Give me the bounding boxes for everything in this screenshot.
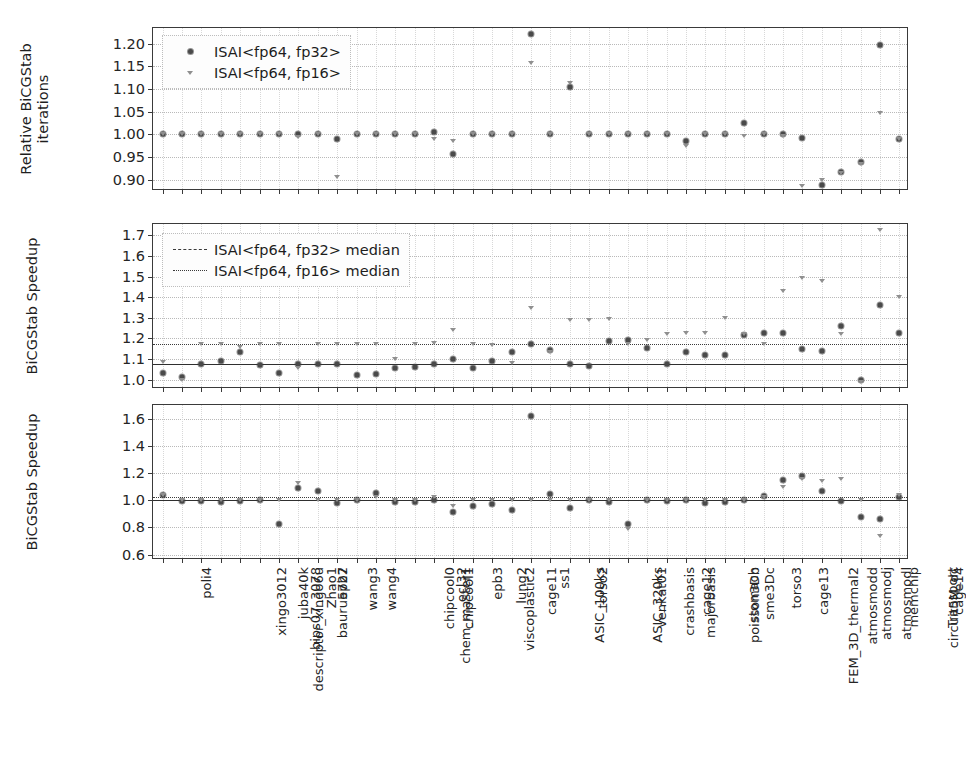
data-point-fp16 bbox=[586, 498, 592, 502]
data-point-fp16 bbox=[858, 498, 864, 502]
x-axis-tick bbox=[783, 387, 784, 392]
y-axis-tick-label: 1.0 bbox=[122, 372, 145, 388]
x-axis-tick bbox=[570, 558, 571, 563]
x-axis-tick bbox=[279, 189, 280, 194]
gridline-vertical bbox=[725, 405, 726, 558]
x-axis-tick bbox=[163, 387, 164, 392]
x-axis-tick-label: xingo3012 bbox=[274, 567, 289, 636]
gridline-vertical bbox=[453, 28, 454, 189]
gridline-vertical bbox=[415, 224, 416, 387]
x-axis-tick bbox=[337, 387, 338, 392]
x-axis-tick bbox=[667, 189, 668, 194]
gridline-horizontal bbox=[153, 338, 907, 339]
data-point-fp32 bbox=[703, 352, 708, 357]
data-point-fp16 bbox=[450, 504, 456, 508]
gridline-vertical bbox=[453, 224, 454, 387]
data-point-fp16 bbox=[780, 134, 786, 138]
gridline-vertical bbox=[744, 405, 745, 558]
x-axis-tick bbox=[492, 189, 493, 194]
gridline-vertical bbox=[686, 224, 687, 387]
x-axis-tick bbox=[453, 189, 454, 194]
x-axis-tick bbox=[492, 387, 493, 392]
x-axis-tick bbox=[783, 189, 784, 194]
gridline-vertical bbox=[453, 405, 454, 558]
data-point-fp32 bbox=[470, 503, 475, 508]
x-axis-tick bbox=[899, 558, 900, 563]
gridline-vertical bbox=[570, 405, 571, 558]
x-axis-tick bbox=[705, 189, 706, 194]
data-point-fp16 bbox=[644, 338, 650, 342]
gridline-horizontal bbox=[153, 446, 907, 447]
legend-entry: ISAI<fp64, fp32> bbox=[170, 41, 341, 62]
x-axis-tick-label: sme3Dc bbox=[762, 567, 777, 620]
x-axis-tick bbox=[589, 387, 590, 392]
data-point-fp32 bbox=[606, 338, 611, 343]
y-axis-tick-label: 1.10 bbox=[113, 81, 145, 97]
data-point-fp16 bbox=[567, 81, 573, 85]
x-axis-tick bbox=[357, 189, 358, 194]
data-point-fp16 bbox=[218, 132, 224, 136]
data-point-fp16 bbox=[295, 135, 301, 139]
x-axis-tick bbox=[899, 387, 900, 392]
x-axis-tick-label: ecl32 bbox=[454, 567, 469, 602]
y-axis-tick bbox=[148, 555, 153, 556]
gridline-vertical bbox=[492, 405, 493, 558]
x-axis-tick bbox=[473, 189, 474, 194]
y-axis-tick-label: 1.6 bbox=[122, 248, 145, 264]
data-point-fp16 bbox=[470, 498, 476, 502]
data-point-fp32 bbox=[625, 521, 630, 526]
gridline-vertical bbox=[512, 28, 513, 189]
data-point-fp16 bbox=[373, 495, 379, 499]
gridline-vertical bbox=[764, 224, 765, 387]
data-point-fp16 bbox=[702, 132, 708, 136]
gridline-vertical bbox=[783, 28, 784, 189]
data-point-fp32 bbox=[858, 515, 863, 520]
gridline-vertical bbox=[240, 405, 241, 558]
x-axis-tick-label: torso2 bbox=[596, 567, 611, 608]
gridline-vertical bbox=[764, 28, 765, 189]
x-axis-tick-label: FEM_3D_thermal2 bbox=[846, 567, 861, 684]
data-point-fp16 bbox=[664, 132, 670, 136]
gridline-vertical bbox=[667, 28, 668, 189]
data-point-fp16 bbox=[664, 498, 670, 502]
panel1-y-axis-title: Relative BiCGStab iterations bbox=[14, 27, 54, 190]
x-axis-tick bbox=[512, 558, 513, 563]
data-point-fp16 bbox=[276, 342, 282, 346]
x-axis-tick bbox=[512, 189, 513, 194]
x-axis-tick bbox=[318, 387, 319, 392]
data-point-fp32 bbox=[335, 362, 340, 367]
gridline-vertical bbox=[725, 28, 726, 189]
gridline-vertical bbox=[802, 28, 803, 189]
x-axis-tick bbox=[764, 558, 765, 563]
gridline-horizontal bbox=[153, 555, 907, 556]
x-axis-tick bbox=[667, 387, 668, 392]
y-axis-tick bbox=[148, 338, 153, 339]
x-axis-tick bbox=[725, 387, 726, 392]
data-point-fp16 bbox=[528, 61, 534, 65]
data-point-fp16 bbox=[179, 378, 185, 382]
panel1-legend: ISAI<fp64, fp32> ISAI<fp64, fp16> bbox=[162, 35, 351, 89]
x-axis-tick bbox=[822, 558, 823, 563]
x-axis-tick-label: wang4 bbox=[385, 567, 400, 610]
x-axis-tick bbox=[395, 189, 396, 194]
data-point-fp16 bbox=[567, 318, 573, 322]
data-point-fp32 bbox=[684, 349, 689, 354]
data-point-fp32 bbox=[664, 362, 669, 367]
data-point-fp16 bbox=[315, 498, 321, 502]
x-axis-tick bbox=[376, 558, 377, 563]
data-point-fp16 bbox=[799, 477, 805, 481]
gridline-vertical bbox=[802, 224, 803, 387]
data-point-fp32 bbox=[296, 485, 301, 490]
x-axis-tick bbox=[744, 387, 745, 392]
panel-speedup-lower: 0.60.81.01.21.41.6 bbox=[152, 404, 908, 559]
x-axis-tick bbox=[337, 189, 338, 194]
data-point-fp16 bbox=[198, 342, 204, 346]
data-point-fp16 bbox=[412, 498, 418, 502]
gridline-vertical bbox=[705, 405, 706, 558]
x-axis-tick bbox=[473, 387, 474, 392]
gridline-vertical bbox=[899, 28, 900, 189]
data-point-fp32 bbox=[529, 341, 534, 346]
data-point-fp16 bbox=[858, 380, 864, 384]
gridline-vertical bbox=[337, 405, 338, 558]
